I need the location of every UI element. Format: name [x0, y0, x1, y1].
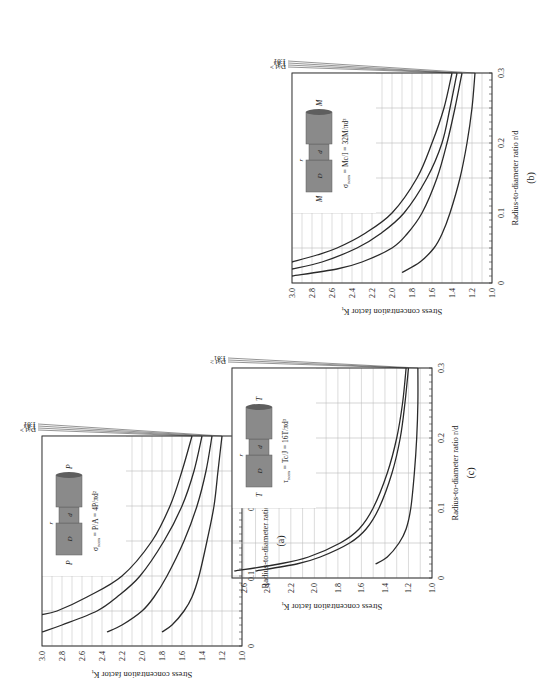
y-tick-label: 1.8	[408, 288, 417, 298]
x-tick-label: 0.1	[497, 208, 506, 218]
load-label: M	[315, 99, 324, 107]
y-tick-label: 1.0	[488, 288, 497, 298]
chart-c-rotated: 00.10.20.31.01.21.41.61.82.02.22.42.6Rad…	[210, 310, 480, 620]
y-tick-label: 2.8	[308, 288, 317, 298]
x-axis-title: Radius-to-diameter ratio r/d	[450, 425, 460, 521]
x-axis-title: Radius-to-diameter ratio r/d	[510, 130, 520, 226]
y-tick-label: 1.8	[158, 651, 167, 661]
legend-label: 1.01	[213, 354, 226, 362]
y-tick-label: 2.6	[78, 651, 87, 661]
y-tick-label: 1.2	[468, 288, 477, 298]
x-tick-label: 0	[247, 644, 256, 648]
svg-text:r: r	[237, 454, 245, 457]
chart-b: 00.10.20.31.01.21.41.61.82.02.22.42.62.8…	[270, 15, 540, 325]
y-tick-label: 1.0	[428, 583, 437, 593]
legend-label: 1.01	[23, 420, 36, 428]
x-tick-label: 0.2	[437, 433, 446, 443]
y-tick-label: 2.2	[118, 651, 127, 661]
load-label: M	[315, 195, 324, 203]
load-label: T	[255, 396, 264, 401]
x-tick-label: 0	[437, 576, 446, 580]
y-tick-label: 1.8	[334, 583, 343, 593]
y-tick-label: 1.6	[357, 583, 366, 593]
chart-c: 00.10.20.31.01.21.41.61.82.02.22.42.6Rad…	[210, 310, 480, 620]
x-tick-label: 0.3	[437, 363, 446, 373]
y-tick-label: 2.4	[263, 583, 272, 593]
svg-text:r: r	[297, 159, 305, 162]
y-axis-title: Stress concentration factor Kt	[281, 601, 382, 612]
legend-label: 1.01	[273, 57, 286, 65]
y-tick-label: 1.6	[428, 288, 437, 298]
y-tick-label: 2.4	[348, 288, 357, 298]
x-tick-label: 0	[497, 281, 506, 285]
load-label: T	[255, 492, 264, 497]
y-tick-label: 2.0	[310, 583, 319, 593]
chart-caption: (c)	[465, 467, 477, 478]
y-tick-label: 1.6	[178, 651, 187, 661]
y-tick-label: 1.4	[448, 288, 457, 298]
y-tick-label: 2.2	[368, 288, 377, 298]
y-tick-label: 2.6	[240, 583, 249, 593]
y-tick-label: 2.2	[287, 583, 296, 593]
y-tick-label: 1.4	[381, 583, 390, 593]
y-axis-title: Stress concentration factor Kt	[91, 669, 192, 679]
y-tick-label: 2.0	[388, 288, 397, 298]
y-tick-label: 3.0	[288, 288, 297, 298]
x-tick-label: 0.3	[497, 68, 506, 78]
x-tick-label: 0.1	[437, 503, 446, 513]
svg-text:d: d	[66, 513, 74, 517]
svg-text:d: d	[256, 445, 264, 449]
y-tick-label: 1.0	[238, 651, 247, 661]
chart-caption: (b)	[525, 172, 537, 184]
y-tick-label: 2.8	[58, 651, 67, 661]
x-tick-label: 0.2	[497, 138, 506, 148]
y-tick-label: 1.2	[218, 651, 227, 661]
y-tick-label: 2.4	[98, 651, 107, 661]
y-tick-label: 2.0	[138, 651, 147, 661]
y-tick-label: 2.6	[328, 288, 337, 298]
svg-text:d: d	[316, 150, 324, 154]
svg-text:r: r	[47, 522, 55, 525]
y-tick-label: 1.4	[198, 651, 207, 661]
y-tick-label: 1.2	[404, 583, 413, 593]
y-tick-label: 3.0	[38, 651, 47, 661]
chart-b-rotated: 00.10.20.31.01.21.41.61.82.02.22.42.62.8…	[270, 15, 540, 325]
